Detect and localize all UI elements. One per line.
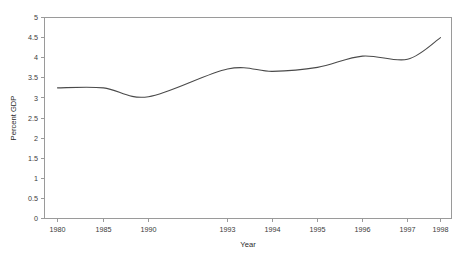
plot-area-background xyxy=(44,17,452,219)
y-tick-label: 3 xyxy=(34,94,38,103)
y-tick-label: 3.5 xyxy=(28,73,38,82)
y-tick-label: 1 xyxy=(34,174,38,183)
x-axis-title: Year xyxy=(240,240,256,249)
x-tick-label: 1994 xyxy=(265,225,281,234)
x-tick-label: 1995 xyxy=(310,225,326,234)
x-tick-label: 1980 xyxy=(50,225,66,234)
y-tick-label: 0 xyxy=(34,214,38,223)
y-tick-label: 5 xyxy=(34,13,38,22)
y-tick-label: 2 xyxy=(34,134,38,143)
x-tick-label: 1997 xyxy=(400,225,416,234)
x-tick-label: 1998 xyxy=(433,225,449,234)
line-chart: 0 0.5 1 1.5 2 2.5 3 3.5 4 4.5 5 Percent … xyxy=(0,0,471,265)
chart-container: 0 0.5 1 1.5 2 2.5 3 3.5 4 4.5 5 Percent … xyxy=(0,0,471,265)
y-tick-label: 4.5 xyxy=(28,33,38,42)
x-tick-label: 1996 xyxy=(355,225,371,234)
y-tick-label: 4 xyxy=(34,53,38,62)
y-tick-label: 2.5 xyxy=(28,114,38,123)
x-tick-label: 1985 xyxy=(96,225,112,234)
x-tick-label: 1993 xyxy=(220,225,236,234)
y-tick-label: 0.5 xyxy=(28,194,38,203)
y-tick-label: 1.5 xyxy=(28,154,38,163)
x-tick-label: 1990 xyxy=(141,225,157,234)
y-axis-title: Percent GDP xyxy=(9,96,18,141)
